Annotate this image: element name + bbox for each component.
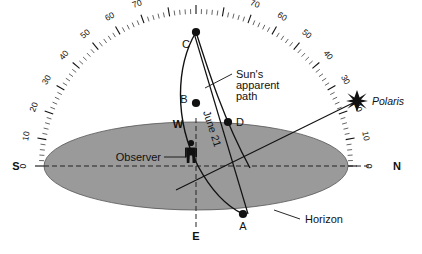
label-east: E	[192, 230, 199, 242]
polaris-label: Polaris	[372, 95, 405, 107]
point-marker-a	[239, 210, 247, 218]
label-point-b: B	[180, 93, 187, 105]
label-point-a: A	[239, 220, 247, 232]
horizon-label: Horizon	[305, 213, 343, 225]
sun-path-leader-line	[205, 74, 232, 88]
altitude-label-north-60: 60	[276, 10, 289, 24]
altitude-label-south-10: 10	[20, 130, 32, 141]
altitude-label-south-50: 50	[78, 27, 92, 41]
point-marker-d	[224, 118, 232, 126]
altitude-label-south-70: 70	[131, 0, 144, 10]
altitude-label-north-30: 30	[339, 73, 353, 86]
observer-label: Observer	[116, 151, 162, 163]
altitude-label-north-10: 10	[360, 130, 372, 141]
altitude-label-south-60: 60	[103, 10, 116, 24]
label-south: S	[12, 160, 19, 172]
altitude-label-south-40: 40	[57, 48, 71, 62]
point-marker-c	[192, 28, 200, 36]
label-north: N	[393, 160, 401, 172]
point-marker-b	[192, 99, 200, 107]
altitude-label-south-80: 80	[160, 0, 171, 2]
altitude-label-north-50: 50	[300, 27, 314, 41]
diagram-canvas: 010203040506070809080706050403020100 S N…	[0, 0, 422, 254]
altitude-label-south-30: 30	[40, 73, 54, 86]
label-point-c: C	[182, 38, 190, 50]
altitude-label-south-0: 0	[18, 163, 28, 168]
label-point-d: D	[236, 116, 244, 128]
altitude-label-north-80: 80	[220, 0, 231, 2]
sun-path-label-line3: path	[236, 90, 257, 102]
altitude-label-north-40: 40	[321, 48, 335, 62]
label-west: W	[173, 118, 184, 130]
altitude-label-south-20: 20	[27, 101, 40, 114]
altitude-label-north-70: 70	[249, 0, 262, 10]
horizon-leader-line	[274, 210, 300, 219]
